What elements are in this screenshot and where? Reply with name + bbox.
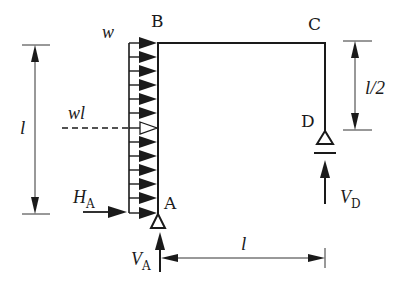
reaction-ha-label: HA <box>72 187 95 211</box>
reaction-vd-arrow <box>320 160 330 204</box>
reaction-va-arrow <box>155 232 165 272</box>
dimension-left-label: l <box>20 117 25 138</box>
pin-support-a <box>151 214 165 228</box>
roller-support-d <box>314 131 336 153</box>
reaction-va-label: VA <box>131 249 151 273</box>
resultant-arrowhead <box>140 122 157 134</box>
load-arrows <box>129 37 157 219</box>
reaction-vd-label: VD <box>340 187 361 211</box>
dimension-bottom-label: l <box>241 233 246 254</box>
node-label-a: A <box>163 193 177 213</box>
frame-diagram: B C D A w wl l l/2 l HA VA VD <box>0 0 403 290</box>
dimension-left-height <box>22 45 50 214</box>
dimension-right-label: l/2 <box>365 77 386 98</box>
load-intensity-label: w <box>102 22 114 42</box>
node-label-c: C <box>308 14 321 34</box>
node-label-b: B <box>151 11 164 31</box>
load-resultant-label: wl <box>68 103 85 123</box>
node-label-d: D <box>301 111 315 131</box>
